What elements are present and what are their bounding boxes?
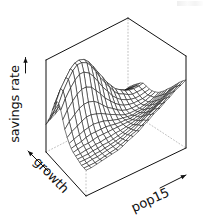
surface-mesh (46, 59, 186, 170)
persp-plot-root: savings rate growth pop15 (0, 0, 205, 224)
savings-rate-axis-label: savings rate (7, 65, 22, 143)
pop15-axis-label: pop15 (129, 185, 172, 215)
growth-axis-label: growth (31, 154, 72, 196)
persp-surface-svg: savings rate growth pop15 (0, 0, 205, 224)
